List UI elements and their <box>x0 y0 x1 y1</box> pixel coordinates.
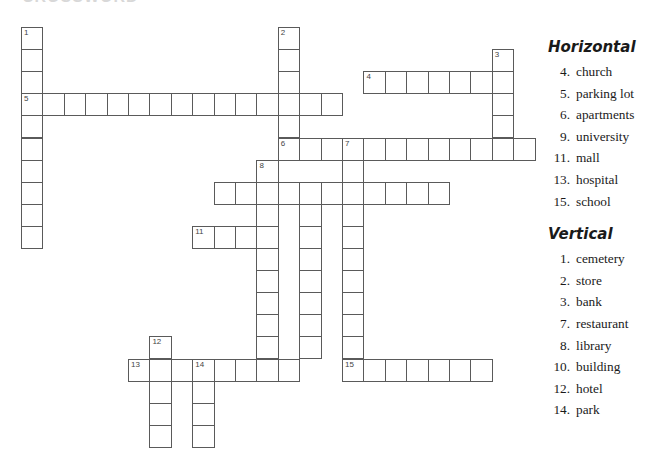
grid-cell[interactable] <box>107 93 129 116</box>
grid-cell[interactable] <box>428 359 450 382</box>
grid-cell[interactable] <box>256 226 278 249</box>
grid-cell[interactable] <box>342 204 364 227</box>
grid-cell[interactable] <box>21 115 43 138</box>
grid-cell[interactable] <box>342 336 364 359</box>
grid-cell[interactable] <box>299 292 321 315</box>
grid-cell[interactable] <box>428 182 450 205</box>
grid-cell[interactable] <box>406 71 428 94</box>
grid-cell[interactable]: 14 <box>192 359 214 382</box>
grid-cell[interactable] <box>235 182 257 205</box>
grid-cell[interactable]: 15 <box>342 359 364 382</box>
grid-cell[interactable] <box>278 359 300 382</box>
grid-cell[interactable] <box>299 138 321 161</box>
grid-cell[interactable] <box>21 71 43 94</box>
grid-cell[interactable] <box>149 93 171 116</box>
grid-cell[interactable] <box>21 182 43 205</box>
grid-cell[interactable] <box>385 138 407 161</box>
grid-cell[interactable] <box>149 403 171 426</box>
grid-cell[interactable] <box>278 71 300 94</box>
grid-cell[interactable] <box>21 49 43 72</box>
grid-cell[interactable] <box>321 93 343 116</box>
grid-cell[interactable] <box>299 336 321 359</box>
grid-cell[interactable]: 8 <box>256 160 278 183</box>
grid-cell[interactable] <box>278 182 300 205</box>
grid-cell[interactable] <box>235 93 257 116</box>
grid-cell[interactable] <box>321 182 343 205</box>
grid-cell[interactable] <box>192 381 214 404</box>
grid-cell[interactable] <box>256 359 278 382</box>
grid-cell[interactable] <box>299 204 321 227</box>
grid-cell[interactable] <box>214 93 236 116</box>
grid-cell[interactable] <box>299 314 321 337</box>
grid-cell[interactable] <box>299 270 321 293</box>
grid-cell[interactable] <box>385 182 407 205</box>
grid-cell[interactable] <box>470 359 492 382</box>
grid-cell[interactable] <box>256 292 278 315</box>
grid-cell[interactable] <box>406 359 428 382</box>
grid-cell[interactable] <box>256 182 278 205</box>
grid-cell[interactable]: 2 <box>278 27 300 50</box>
grid-cell[interactable] <box>470 138 492 161</box>
grid-cell[interactable] <box>256 336 278 359</box>
grid-cell[interactable] <box>492 115 514 138</box>
grid-cell[interactable] <box>299 93 321 116</box>
grid-cell[interactable] <box>342 314 364 337</box>
grid-cell[interactable]: 6 <box>278 138 300 161</box>
grid-cell[interactable] <box>342 270 364 293</box>
grid-cell[interactable] <box>256 248 278 271</box>
grid-cell[interactable] <box>64 93 86 116</box>
grid-cell[interactable] <box>449 138 471 161</box>
grid-cell[interactable]: 11 <box>192 226 214 249</box>
grid-cell[interactable] <box>363 138 385 161</box>
grid-cell[interactable] <box>21 160 43 183</box>
grid-cell[interactable] <box>363 359 385 382</box>
grid-cell[interactable] <box>342 292 364 315</box>
grid-cell[interactable] <box>214 182 236 205</box>
grid-cell[interactable] <box>256 270 278 293</box>
grid-cell[interactable] <box>406 182 428 205</box>
grid-cell[interactable] <box>385 359 407 382</box>
grid-cell[interactable] <box>342 226 364 249</box>
grid-cell[interactable] <box>256 314 278 337</box>
grid-cell[interactable] <box>171 93 193 116</box>
grid-cell[interactable]: 1 <box>21 27 43 50</box>
grid-cell[interactable] <box>342 248 364 271</box>
grid-cell[interactable] <box>256 93 278 116</box>
grid-cell[interactable] <box>171 359 193 382</box>
grid-cell[interactable] <box>278 93 300 116</box>
grid-cell[interactable] <box>149 425 171 448</box>
grid-cell[interactable] <box>492 71 514 94</box>
grid-cell[interactable] <box>256 204 278 227</box>
grid-cell[interactable] <box>449 71 471 94</box>
grid-cell[interactable] <box>513 138 535 161</box>
grid-cell[interactable]: 3 <box>492 49 514 72</box>
grid-cell[interactable] <box>492 138 514 161</box>
grid-cell[interactable] <box>342 160 364 183</box>
grid-cell[interactable] <box>128 93 150 116</box>
grid-cell[interactable] <box>470 71 492 94</box>
grid-cell[interactable] <box>299 226 321 249</box>
grid-cell[interactable] <box>299 182 321 205</box>
grid-cell[interactable] <box>449 359 471 382</box>
grid-cell[interactable] <box>299 248 321 271</box>
grid-cell[interactable] <box>235 359 257 382</box>
grid-cell[interactable] <box>192 93 214 116</box>
grid-cell[interactable] <box>214 359 236 382</box>
grid-cell[interactable] <box>428 71 450 94</box>
grid-cell[interactable] <box>278 49 300 72</box>
grid-cell[interactable] <box>235 226 257 249</box>
grid-cell[interactable]: 5 <box>21 93 43 116</box>
grid-cell[interactable] <box>363 182 385 205</box>
grid-cell[interactable]: 7 <box>342 138 364 161</box>
grid-cell[interactable] <box>149 359 171 382</box>
grid-cell[interactable] <box>192 403 214 426</box>
grid-cell[interactable]: 4 <box>363 71 385 94</box>
grid-cell[interactable] <box>149 381 171 404</box>
grid-cell[interactable]: 12 <box>149 336 171 359</box>
grid-cell[interactable]: 13 <box>128 359 150 382</box>
grid-cell[interactable] <box>492 93 514 116</box>
grid-cell[interactable] <box>21 204 43 227</box>
grid-cell[interactable] <box>385 71 407 94</box>
grid-cell[interactable] <box>42 93 64 116</box>
grid-cell[interactable] <box>428 138 450 161</box>
